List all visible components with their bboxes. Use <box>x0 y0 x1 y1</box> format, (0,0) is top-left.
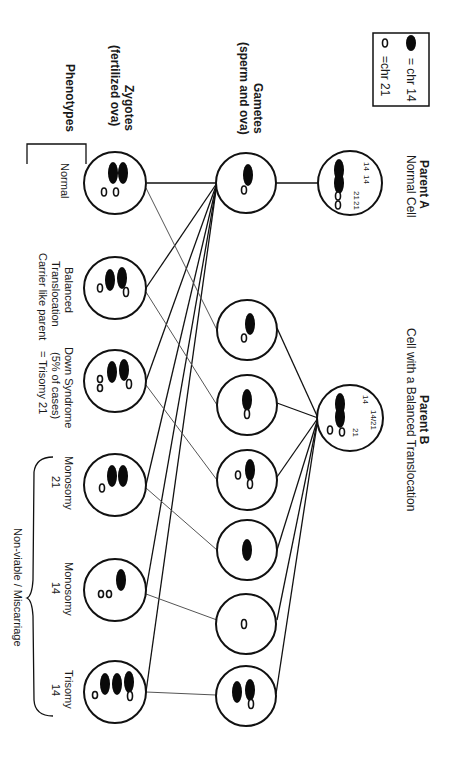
chr21-icon <box>242 334 247 342</box>
parent-a-cell: 14 14 21 21 <box>318 151 382 215</box>
gamete-b-cell-4 <box>217 520 277 580</box>
translocation-21-part-icon <box>128 692 133 701</box>
chr-label: 21 <box>351 428 360 437</box>
translocation-14-21-icon <box>245 459 255 481</box>
chr-label: 21 <box>352 201 361 210</box>
chr14-icon <box>245 313 255 335</box>
chr14-icon <box>108 162 118 184</box>
zygotes-title: Zygotes <box>122 85 136 131</box>
chr14-icon <box>116 569 126 591</box>
translocation-14-21-icon <box>119 359 129 381</box>
chr21-icon <box>98 385 103 392</box>
translocation-14-21-icon <box>245 679 255 701</box>
chr14-icon <box>118 465 128 487</box>
translocation-21-part-icon <box>340 428 345 436</box>
zygotes-subtitle: (fertilized ova) <box>108 45 122 126</box>
translocation-21-part-icon <box>124 288 129 297</box>
chr14-legend-icon <box>406 35 416 51</box>
parent-b-title: Parent B <box>417 395 431 445</box>
zygote-cell-normal <box>84 152 146 214</box>
chr14-icon <box>112 673 122 695</box>
gamete-b-cell-2 <box>217 375 277 435</box>
parent-a-title: Parent A <box>417 160 431 209</box>
chr14-icon <box>107 361 117 383</box>
zygote-cell-monosomy-14 <box>84 559 146 621</box>
chr21-legend-icon <box>383 39 388 47</box>
phenotype-mono21-line1: Monosomy <box>63 456 75 510</box>
chr21-icon <box>100 484 105 492</box>
chr-label: 14 <box>361 395 370 404</box>
chr21-icon <box>98 376 103 383</box>
gametes-subtitle: (sperm and ova) <box>237 42 251 135</box>
chr14-icon <box>232 681 242 703</box>
zygote-cell-balanced <box>84 257 146 319</box>
phenotype-labels: Normal Balanced Translocation Carrier li… <box>37 163 75 709</box>
gamete-b-cell-3 <box>217 450 277 510</box>
chr21-icon <box>336 192 341 200</box>
chr14-icon <box>107 465 117 487</box>
parent-b-subtitle: Cell with a Balanced Translocation <box>404 328 418 511</box>
parent-b-cell: 14 14/21 21 <box>317 385 383 451</box>
phenotype-bracket <box>27 144 86 164</box>
phenotype-down-line3: = Trisomy 21 <box>37 351 49 414</box>
chr14-icon <box>118 162 128 184</box>
chr-label: 14 <box>362 175 371 184</box>
phenotype-mono14-line1: Monosomy <box>63 562 75 616</box>
legend-chr21-label: =chr 21 <box>378 56 392 97</box>
phenotype-balanced-line1: Balanced <box>63 267 75 313</box>
phenotype-mono21-line2: 21 <box>50 476 62 488</box>
gamete-b-cell-6 <box>216 666 276 726</box>
chr14-icon <box>105 269 115 291</box>
phenotypes-title: Phenotypes <box>63 64 77 132</box>
chr-label: 21 <box>352 191 361 200</box>
legend-box: = chr 14 =chr 21 <box>373 33 429 106</box>
gametes-title: Gametes <box>251 83 265 134</box>
phenotype-normal: Normal <box>59 163 71 198</box>
phenotype-mono14-line2: 14 <box>50 582 62 594</box>
chr21-icon <box>98 284 103 292</box>
non-viable-label: Non-viable / Miscarriage <box>12 528 24 647</box>
zygote-cell-monosomy-21 <box>84 454 146 516</box>
chr-label: 14/21 <box>369 410 378 431</box>
chr21-icon <box>336 201 341 209</box>
phenotype-tri14-line2: 14 <box>50 684 62 696</box>
phenotype-down-line1: Down Syndrome <box>63 347 75 428</box>
chr-label: 14 <box>362 162 371 171</box>
phenotype-tri14-line1: Trisomy <box>63 670 75 709</box>
translocation-21-part-icon <box>248 480 253 489</box>
translocation-diagram: = chr 14 =chr 21 14 14 <box>0 0 452 768</box>
phenotype-down-line2: (5% of cases) <box>50 352 62 419</box>
translocation-21-part-icon <box>245 410 250 419</box>
zygote-cell-trisomy-14 <box>84 661 146 723</box>
translocation-14-21-icon <box>335 406 345 428</box>
chr21-icon <box>236 471 241 479</box>
chr14-icon <box>334 172 344 194</box>
phenotype-balanced-line3: Carrier like parent <box>37 253 49 340</box>
chr21-icon <box>114 188 119 196</box>
translocation-14-21-icon <box>124 671 134 693</box>
translocation-21-part-icon <box>127 380 132 389</box>
chr21-icon <box>328 426 333 434</box>
legend-chr14-label: = chr 14 <box>404 58 418 102</box>
non-viable-brace <box>27 457 53 716</box>
chr21-icon <box>99 591 104 598</box>
chr21-icon <box>242 620 247 629</box>
gamete-b-cell-5 <box>216 594 276 654</box>
gamete-b-cell-1 <box>217 300 277 360</box>
parent-a-subtitle: Normal Cell <box>404 155 418 218</box>
chr21-icon <box>93 692 98 699</box>
translocation-14-21-icon <box>242 389 252 411</box>
phenotype-balanced-line2: Translocation <box>50 261 62 327</box>
translocation-21-part-icon <box>249 700 254 709</box>
chr21-icon <box>107 591 112 598</box>
chr21-icon <box>242 186 247 194</box>
gamete-a-cell <box>216 153 276 213</box>
chr14-icon <box>243 164 253 186</box>
chr14-icon <box>242 539 252 561</box>
translocation-14-21-icon <box>117 267 127 289</box>
chr14-icon <box>100 673 110 695</box>
zygote-cell-down-syndrome <box>84 350 146 412</box>
chr21-icon <box>102 188 107 196</box>
